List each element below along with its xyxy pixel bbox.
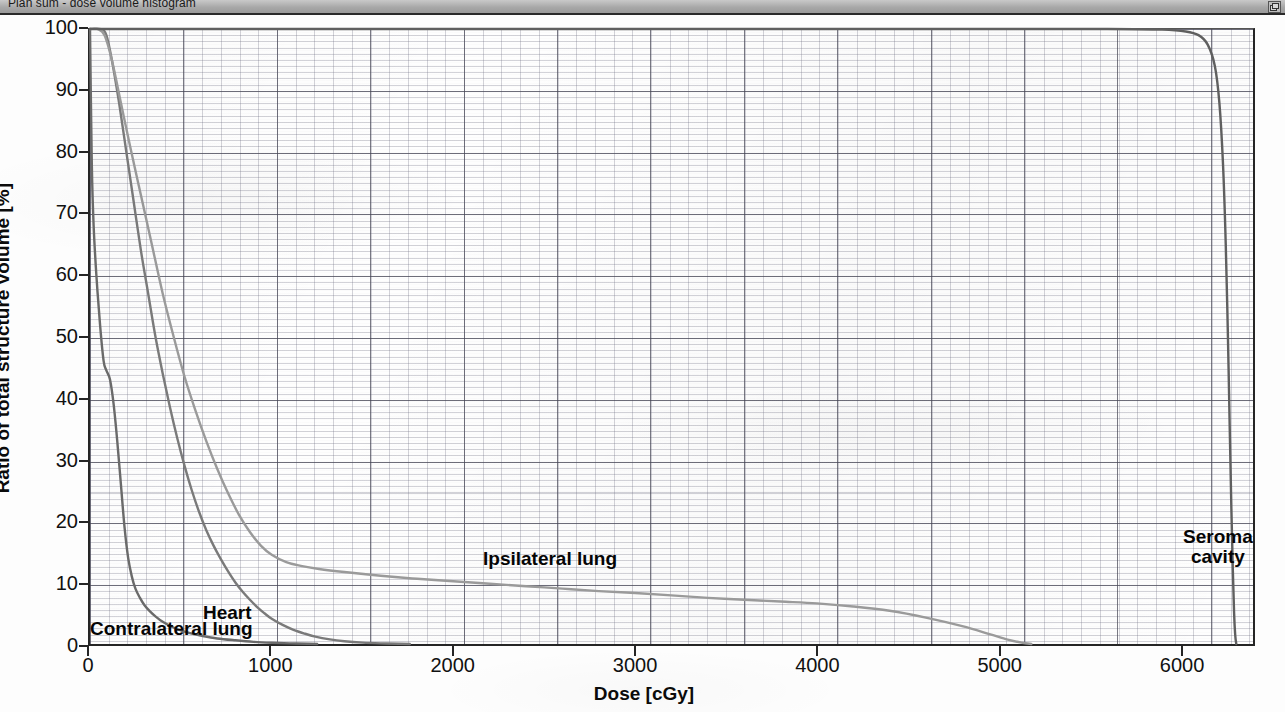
x-tick-mark xyxy=(87,646,89,656)
y-tick-label: 10 xyxy=(36,572,78,595)
window-title-bar: Plan sum - dose volume histogram xyxy=(0,0,1285,15)
y-tick-mark xyxy=(79,583,88,585)
y-tick-label: 0 xyxy=(36,634,78,657)
window-title: Plan sum - dose volume histogram xyxy=(8,0,196,10)
y-tick-mark xyxy=(79,336,88,338)
y-tick-label: 40 xyxy=(36,387,78,410)
x-tick-label: 6000 xyxy=(1160,654,1205,677)
y-tick-label: 80 xyxy=(36,140,78,163)
y-tick-mark xyxy=(79,212,88,214)
y-axis-label: Ratio of total structure volume [%] xyxy=(0,183,14,493)
restore-window-icon[interactable] xyxy=(1268,1,1281,13)
window-controls[interactable] xyxy=(1261,0,1283,14)
x-axis-label: Dose [cGy] xyxy=(594,683,694,705)
plot-area xyxy=(88,28,1255,646)
curve-label: Ipsilateral lung xyxy=(483,549,617,569)
x-tick-mark xyxy=(999,646,1001,656)
y-tick-label: 100 xyxy=(36,16,78,39)
x-tick-label: 5000 xyxy=(977,654,1022,677)
x-tick-mark xyxy=(816,646,818,656)
x-tick-mark xyxy=(634,646,636,656)
y-tick-mark xyxy=(79,460,88,462)
y-tick-mark xyxy=(79,521,88,523)
x-tick-label: 3000 xyxy=(613,654,658,677)
x-tick-label: 0 xyxy=(82,654,93,677)
dvh-curves xyxy=(90,29,1253,644)
x-tick-label: 2000 xyxy=(430,654,475,677)
dvh-curve xyxy=(90,29,1236,644)
curve-label: Seroma cavity xyxy=(1183,527,1253,567)
x-tick-mark xyxy=(269,646,271,656)
x-tick-mark xyxy=(452,646,454,656)
y-tick-label: 20 xyxy=(36,510,78,533)
y-tick-label: 60 xyxy=(36,263,78,286)
y-tick-mark xyxy=(79,89,88,91)
dvh-curve xyxy=(90,29,410,644)
y-tick-label: 90 xyxy=(36,78,78,101)
curve-label: Heart xyxy=(203,603,252,623)
y-tick-mark xyxy=(79,398,88,400)
y-tick-mark xyxy=(79,27,88,29)
x-tick-label: 4000 xyxy=(795,654,840,677)
x-tick-label: 1000 xyxy=(248,654,293,677)
y-tick-mark xyxy=(79,274,88,276)
y-tick-label: 50 xyxy=(36,325,78,348)
y-tick-label: 70 xyxy=(36,201,78,224)
y-tick-mark xyxy=(79,151,88,153)
y-tick-label: 30 xyxy=(36,449,78,472)
dose-volume-histogram-chart: Ratio of total structure volume [%] Dose… xyxy=(0,15,1285,712)
x-tick-mark xyxy=(1181,646,1183,656)
